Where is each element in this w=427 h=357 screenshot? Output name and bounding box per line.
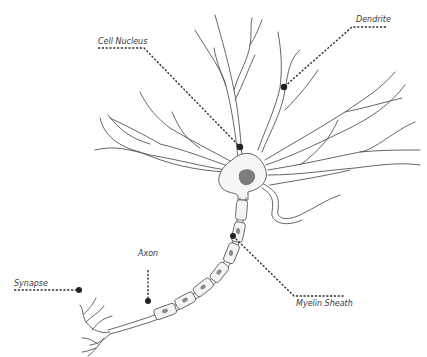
label-cell-nucleus: Cell Nucleus xyxy=(98,38,147,46)
label-myelin-sheath: Myelin Sheath xyxy=(296,300,353,308)
dendrites xyxy=(95,15,420,224)
label-axon: Axon xyxy=(138,250,158,258)
leader-axon xyxy=(145,270,151,304)
leader-dendrite xyxy=(281,27,386,90)
leader-myelin-sheath xyxy=(230,233,344,296)
leader-cell-nucleus xyxy=(98,48,243,150)
axon-terminal xyxy=(80,298,112,356)
label-synapse: Synapse xyxy=(14,280,48,288)
myelin-sheath-segments xyxy=(153,200,248,321)
label-dendrite: Dendrite xyxy=(356,16,391,24)
neuron-diagram xyxy=(0,0,427,357)
